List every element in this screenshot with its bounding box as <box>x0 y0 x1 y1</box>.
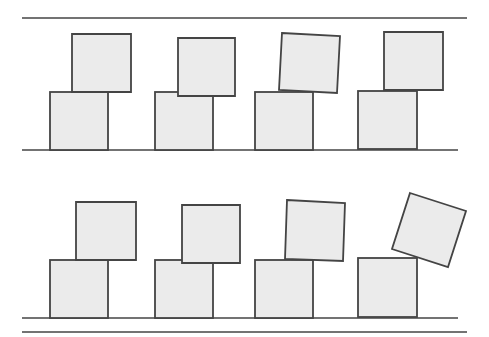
bottom-block <box>155 92 213 150</box>
bottom-block <box>358 258 417 317</box>
top-block <box>182 205 240 263</box>
block-stack-1-3 <box>255 33 340 150</box>
block-stack-1-2 <box>155 38 235 150</box>
top-block <box>384 32 443 90</box>
top-block <box>279 33 340 93</box>
top-block <box>76 202 136 260</box>
bottom-block <box>358 91 417 149</box>
diagram-canvas <box>0 0 489 337</box>
block-stack-2-3 <box>255 200 345 318</box>
top-block <box>178 38 235 96</box>
bottom-block <box>255 92 313 150</box>
bottom-block <box>255 260 313 318</box>
row-1 <box>50 32 443 150</box>
top-block <box>285 200 345 261</box>
block-stack-2-4 <box>358 193 466 317</box>
top-block <box>72 34 131 92</box>
bottom-block <box>50 260 108 318</box>
row-2 <box>50 193 466 318</box>
bottom-block <box>155 260 213 318</box>
top-block <box>392 193 466 267</box>
block-stack-1-4 <box>358 32 443 149</box>
block-stack-2-2 <box>155 205 240 318</box>
block-stacking-diagram <box>0 0 489 337</box>
block-stack-2-1 <box>50 202 136 318</box>
bottom-block <box>50 92 108 150</box>
block-stack-1-1 <box>50 34 131 150</box>
